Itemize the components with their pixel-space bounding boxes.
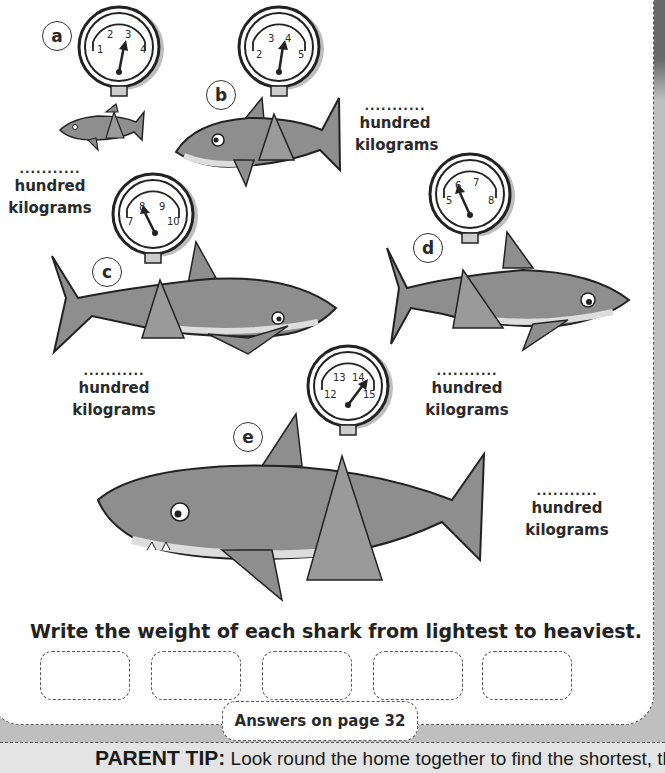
unit-kilograms-a: kilograms [8,197,92,219]
gauge-c-tick-10: 10 [167,211,180,233]
unit-hundred-e: hundred [522,497,612,519]
shark-c-illustration [48,238,344,368]
answer-blank-c[interactable]: ........... [72,365,156,377]
shark-a-illustration [58,100,150,155]
unit-hundred-a: hundred [8,175,92,197]
gauge-c-tick-9: 9 [159,196,165,218]
gauge-c-tick-8: 8 [139,196,145,218]
scale-gauge-a [76,4,166,102]
answer-box-4[interactable] [373,651,463,700]
shark-e-illustration [92,410,512,610]
shark-d-illustration [383,228,633,368]
unit-hundred-c: hundred [72,377,156,399]
gauge-d-tick-6: 6 [455,175,461,197]
answer-blank-b[interactable]: ........... [355,100,435,112]
unit-hundred-d: hundred [425,377,509,399]
answer-blank-d[interactable]: ........... [425,365,509,377]
gauge-a-tick-3: 3 [125,24,131,46]
parent-tip-label: PARENT TIP: [95,746,225,769]
parent-tip-text: Look round the home together to find the… [225,748,665,769]
unit-kilograms-e: kilograms [522,519,612,541]
unit-kilograms-b: kilograms [355,134,435,156]
answer-blank-a[interactable]: ........... [8,163,92,175]
answer-box-5[interactable] [482,651,572,700]
gauge-a-tick-2: 2 [107,24,113,46]
answer-box-1[interactable] [40,651,130,700]
parent-tip: PARENT TIP: Look round the home together… [95,746,665,770]
answer-box-2[interactable] [151,651,241,700]
gauge-a-tick-4: 4 [140,39,146,61]
shark-e-answer: ........... hundred kilograms [522,485,612,541]
gauge-b-tick-4: 4 [285,28,291,50]
instruction-text: Write the weight of each shark from ligh… [30,620,642,642]
shark-a-label: a [42,21,72,51]
unit-hundred-b: hundred [355,112,435,134]
gauge-a-tick-1: 1 [97,39,103,61]
gauge-d-tick-7: 7 [473,172,479,194]
scale-gauge-b [236,4,326,102]
shark-a-answer: ........... hundred kilograms [8,163,92,219]
answers-note: Answers on page 32 [222,701,418,741]
shark-b-answer: ........... hundred kilograms [355,100,435,156]
gauge-d-tick-8: 8 [488,190,494,212]
gauge-b-tick-5: 5 [298,44,304,66]
gauge-e-tick-13: 13 [333,367,346,389]
gauge-d-tick-5: 5 [446,190,452,212]
answer-box-3[interactable] [262,651,352,700]
gauge-b-tick-3: 3 [268,28,274,50]
gauge-b-tick-2: 2 [256,44,262,66]
gauge-e-tick-15: 15 [363,384,376,406]
answer-blank-e[interactable]: ........... [522,485,612,497]
gauge-c-tick-7: 7 [127,211,133,233]
